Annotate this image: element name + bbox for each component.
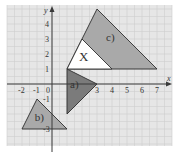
x-tick-label: 3 — [95, 86, 99, 95]
triangle-c-label: c) — [106, 31, 115, 44]
y-tick-label: -1 — [43, 95, 50, 104]
coordinate-plane: x y 0 -2-1345674321-1-3 c)Xa)b) — [0, 0, 180, 157]
y-tick-label: 4 — [45, 20, 49, 29]
x-axis-label: x — [166, 74, 171, 83]
y-axis-label: y — [43, 6, 48, 15]
x-tick-label: 6 — [140, 86, 144, 95]
y-tick-label: 1 — [45, 65, 49, 74]
x-tick-label: -1 — [33, 86, 40, 95]
coordinate-figure: x y 0 -2-1345674321-1-3 c)Xa)b) — [0, 0, 180, 157]
triangle-a-label: a) — [70, 78, 79, 91]
y-tick-label: -3 — [43, 125, 50, 134]
x-tick-label: 7 — [155, 86, 159, 95]
origin-label: 0 — [46, 86, 50, 95]
triangle-b-label: b) — [35, 111, 45, 124]
y-tick-label: 2 — [45, 50, 49, 59]
x-tick-label: 4 — [110, 86, 114, 95]
y-tick-label: 3 — [45, 35, 49, 44]
x-tick-label: 5 — [125, 86, 129, 95]
triangle-x-label: X — [79, 49, 89, 64]
x-tick-label: -2 — [18, 86, 25, 95]
